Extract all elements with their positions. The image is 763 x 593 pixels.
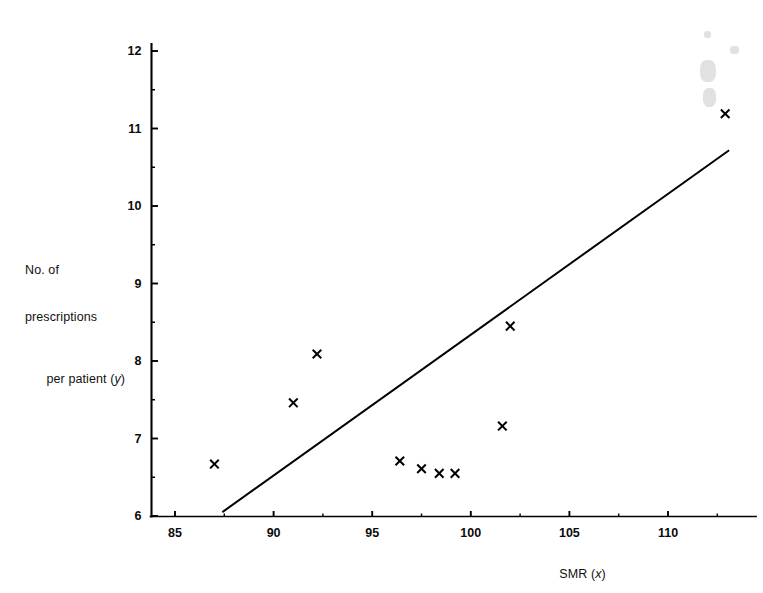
data-point-marker [506, 322, 515, 331]
data-point-marker [721, 109, 730, 118]
y-axis-title-line-3-text: per patient ( [46, 372, 114, 386]
y-axis-tick-label: 6 [116, 509, 142, 523]
x-axis-title: SMR (x) [545, 551, 606, 593]
y-axis-title-line-1: No. of [25, 263, 125, 279]
y-axis-tick-label: 11 [116, 122, 142, 136]
data-point-marker [451, 469, 460, 478]
x-axis-tick-label: 95 [365, 526, 379, 540]
x-axis-tick-label: 110 [658, 526, 678, 540]
y-axis-tick-label: 9 [116, 277, 142, 291]
scan-artifact-speck [703, 88, 716, 107]
data-point-marker [417, 464, 426, 473]
y-axis-tick-label: 7 [116, 432, 142, 446]
x-axis-tick-label: 105 [559, 526, 580, 540]
x-axis-tick-label: 90 [267, 526, 281, 540]
data-point-marker [435, 469, 444, 478]
axis-lines [151, 44, 757, 517]
regression-line [222, 150, 729, 512]
x-axis-tick-label: 85 [168, 526, 182, 540]
y-axis-title-line-3: per patient (y) [25, 356, 125, 403]
regression-line-segment [222, 150, 729, 512]
data-point-marker [210, 460, 219, 469]
x-axis-title-text: SMR ( [559, 567, 595, 581]
x-axis-tick-label: 100 [460, 526, 481, 540]
data-point-markers [210, 109, 729, 477]
data-point-marker [313, 350, 322, 359]
y-axis-tick-label: 12 [116, 44, 142, 58]
scan-artifact-speck [700, 60, 716, 82]
data-point-marker [498, 422, 507, 431]
y-axis-tick-label: 10 [116, 199, 142, 213]
scatter-plot-figure: No. of prescriptions per patient (y) SMR… [0, 0, 763, 593]
y-axis-tick-label: 8 [116, 354, 142, 368]
data-point-marker [289, 399, 298, 408]
data-point-marker [396, 457, 405, 466]
y-axis-title-line-2: prescriptions [25, 310, 125, 326]
scan-artifact-speck [704, 31, 711, 38]
scan-artifact-speck [730, 46, 739, 54]
y-axis-title: No. of prescriptions per patient (y) [25, 232, 125, 434]
